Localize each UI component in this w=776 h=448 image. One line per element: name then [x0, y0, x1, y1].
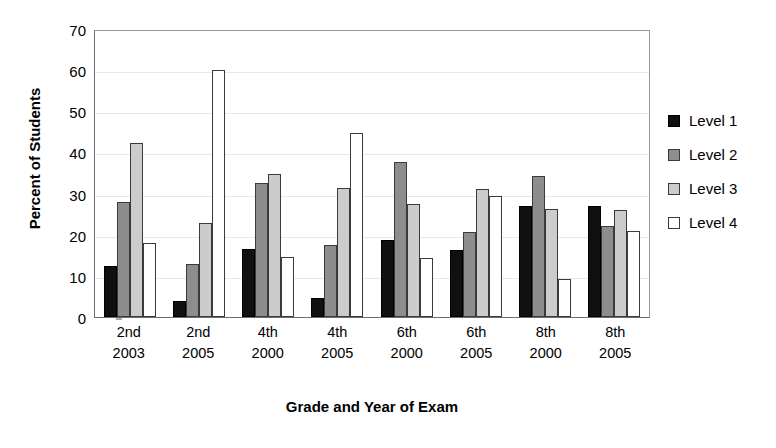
bar[interactable]: [558, 279, 571, 317]
x-axis-tick-label: 2nd2003: [94, 322, 164, 384]
y-axis-tick-label: 0: [78, 311, 86, 326]
bar[interactable]: [407, 204, 420, 317]
legend-swatch-icon: [668, 183, 680, 195]
x-axis-tick-label: 8th2005: [581, 322, 651, 384]
legend-swatch-icon: [668, 149, 680, 161]
x-axis-tick-labels: 2nd20032nd20054th20004th20056th20006th20…: [94, 322, 650, 384]
y-axis-tick-label: 30: [69, 187, 86, 202]
bar[interactable]: [104, 266, 117, 317]
bar[interactable]: [173, 301, 186, 317]
bar[interactable]: [394, 162, 407, 317]
x-tick-grade: 2nd: [94, 322, 164, 343]
bar[interactable]: [311, 298, 324, 317]
x-axis-title: Grade and Year of Exam: [94, 398, 650, 415]
x-tick-grade: 4th: [233, 322, 303, 343]
x-axis-tick-label: 2nd2005: [164, 322, 234, 384]
bar[interactable]: [381, 240, 394, 317]
legend-item[interactable]: Level 2: [668, 146, 737, 163]
bar[interactable]: [476, 189, 489, 317]
bar[interactable]: [420, 258, 433, 317]
x-tick-grade: 4th: [303, 322, 373, 343]
bar[interactable]: [588, 206, 601, 317]
bar-group: [580, 31, 649, 317]
y-axis-tick-label: 50: [69, 105, 86, 120]
y-axis-tick-label: 10: [69, 269, 86, 284]
plot-area: [94, 30, 650, 318]
x-axis-tick-label: 6th2005: [442, 322, 512, 384]
bar[interactable]: [337, 188, 350, 317]
bar-group: [164, 31, 233, 317]
bar-group: [441, 31, 510, 317]
bar[interactable]: [281, 257, 294, 317]
y-axis-title: Percent of Students: [26, 39, 43, 279]
x-axis-tick-label: 8th2000: [511, 322, 581, 384]
x-axis-tick-label: 6th2000: [372, 322, 442, 384]
bar[interactable]: [242, 249, 255, 317]
legend-item[interactable]: Level 1: [668, 112, 737, 129]
legend: Level 1Level 2Level 3Level 4: [668, 112, 737, 231]
bar[interactable]: [324, 245, 337, 317]
bar[interactable]: [199, 223, 212, 317]
x-tick-grade: 6th: [442, 322, 512, 343]
bar[interactable]: [268, 174, 281, 317]
bar[interactable]: [614, 210, 627, 317]
y-axis-tick-label: 60: [69, 64, 86, 79]
x-tick-year: 2005: [164, 343, 234, 364]
bar[interactable]: [130, 143, 143, 317]
bar-chart: Percent of Students 010203040506070 2nd2…: [0, 0, 776, 448]
y-axis-tick-labels: 010203040506070: [52, 30, 86, 318]
bar[interactable]: [212, 70, 225, 317]
x-tick-grade: 8th: [581, 322, 651, 343]
bar-group: [303, 31, 372, 317]
y-axis-tick-label: 70: [69, 23, 86, 38]
x-tick-grade: 2nd: [164, 322, 234, 343]
y-axis-tick-label: 20: [69, 228, 86, 243]
legend-swatch-icon: [668, 115, 680, 127]
bar[interactable]: [117, 202, 130, 317]
y-axis-tick-mark: [116, 318, 122, 319]
x-tick-grade: 8th: [511, 322, 581, 343]
bar[interactable]: [489, 196, 502, 317]
legend-item-label: Level 2: [689, 146, 737, 163]
legend-swatch-icon: [668, 217, 680, 229]
bar[interactable]: [143, 243, 156, 317]
y-axis-tick-label: 40: [69, 146, 86, 161]
x-tick-year: 2005: [442, 343, 512, 364]
bar[interactable]: [519, 206, 532, 317]
x-tick-year: 2005: [581, 343, 651, 364]
x-tick-year: 2003: [94, 343, 164, 364]
bar-groups: [95, 31, 649, 317]
x-axis-tick-label: 4th2000: [233, 322, 303, 384]
legend-item[interactable]: Level 4: [668, 214, 737, 231]
legend-item-label: Level 3: [689, 180, 737, 197]
x-tick-year: 2005: [303, 343, 373, 364]
bar[interactable]: [601, 226, 614, 317]
bar[interactable]: [186, 264, 199, 317]
bar[interactable]: [255, 183, 268, 317]
bar-group: [95, 31, 164, 317]
legend-item-label: Level 1: [689, 112, 737, 129]
bar[interactable]: [463, 232, 476, 317]
legend-item[interactable]: Level 3: [668, 180, 737, 197]
bar-group: [372, 31, 441, 317]
legend-item-label: Level 4: [689, 214, 737, 231]
bar[interactable]: [532, 176, 545, 317]
bar[interactable]: [627, 231, 640, 317]
x-tick-year: 2000: [233, 343, 303, 364]
x-axis-tick-label: 4th2005: [303, 322, 373, 384]
bar-group: [511, 31, 580, 317]
x-tick-grade: 6th: [372, 322, 442, 343]
x-tick-year: 2000: [372, 343, 442, 364]
bar[interactable]: [350, 133, 363, 317]
bar[interactable]: [545, 209, 558, 317]
x-tick-year: 2000: [511, 343, 581, 364]
bar[interactable]: [450, 250, 463, 317]
bar-group: [234, 31, 303, 317]
